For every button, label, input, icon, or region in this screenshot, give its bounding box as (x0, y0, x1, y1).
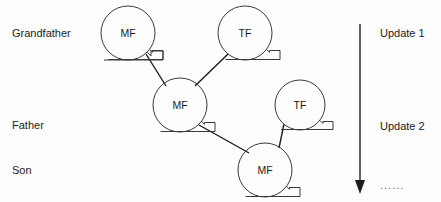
edge-group (146, 54, 284, 153)
update-label-2: Update 2 (380, 121, 425, 132)
node-grandfather-tf[interactable]: TF (218, 6, 280, 60)
node-label: TF (294, 99, 307, 111)
update-label-1: Update 1 (380, 28, 425, 39)
node-label: MF (120, 27, 135, 39)
edge-father-mf-to-son-mf (199, 125, 249, 153)
row-label-father: Father (12, 120, 44, 131)
arrowhead-down-icon (355, 180, 365, 194)
timeline-ellipsis: ...... (380, 180, 404, 191)
node-father-mf[interactable]: MF (153, 78, 215, 132)
node-father-tf[interactable]: TF (275, 80, 333, 130)
self-loop-hook-icon (281, 121, 333, 130)
edge-father-tf-to-son-mf (279, 124, 284, 148)
node-grandfather-mf[interactable]: MF (101, 6, 163, 60)
node-label: MF (257, 164, 272, 176)
node-son-mf[interactable]: MF (238, 143, 300, 197)
node-label: MF (172, 99, 187, 111)
row-label-son: Son (12, 165, 32, 176)
edge-grandfather-tf-to-father-mf (195, 54, 228, 86)
node-label: TF (239, 27, 252, 39)
update-timeline-arrow (355, 24, 365, 194)
row-label-grandfather: Grandfather (12, 28, 71, 39)
diagram-canvas: MF TF MF TF MF (0, 0, 441, 202)
